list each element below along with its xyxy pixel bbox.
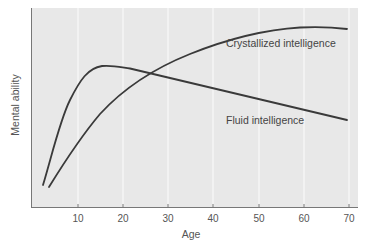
crystallized-intelligence-label: Crystallized intelligence — [226, 37, 336, 49]
tick-label-30: 30 — [162, 213, 174, 224]
x-axis-tick-labels: 10 20 30 40 50 60 70 — [72, 213, 355, 224]
x-axis-title: Age — [182, 228, 201, 240]
tick-label-10: 10 — [72, 213, 84, 224]
tick-label-60: 60 — [298, 213, 310, 224]
y-axis-title: Mental ability — [9, 74, 21, 136]
tick-label-20: 20 — [117, 213, 129, 224]
tick-label-70: 70 — [343, 213, 355, 224]
chart: 10 20 30 40 50 60 70 Age Mental ability … — [0, 0, 368, 246]
fluid-intelligence-label: Fluid intelligence — [226, 114, 304, 126]
tick-label-50: 50 — [253, 213, 265, 224]
tick-label-40: 40 — [207, 213, 219, 224]
